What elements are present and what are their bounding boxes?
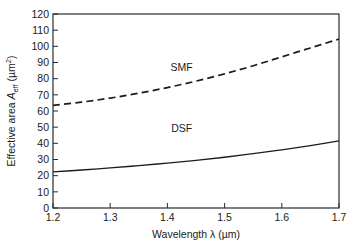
y-tick-label: 50 — [37, 121, 49, 133]
y-tick-label: 10 — [37, 186, 49, 198]
x-tick-label: 1.7 — [332, 211, 347, 223]
x-axis-title-main: Wavelength — [152, 228, 210, 240]
x-tick-label: 1.3 — [103, 211, 118, 223]
series-label-dsf: DSF — [171, 122, 192, 134]
y-tick-marks — [53, 14, 58, 208]
x-tick-label: 1.5 — [217, 211, 232, 223]
y-axis-title-units-close: ) — [5, 56, 17, 60]
x-tick-labels: 1.2 1.3 1.4 1.5 1.6 1.7 — [46, 211, 347, 223]
y-tick-label: 20 — [37, 169, 49, 181]
x-axis-title: Wavelength λ (µm) — [152, 228, 240, 240]
x-tick-label: 1.2 — [46, 211, 61, 223]
series-label-smf: SMF — [171, 61, 193, 73]
y-axis-title-main: Effective area — [5, 100, 17, 167]
figure-container: 0 10 20 30 40 50 60 70 80 90 100 110 120… — [0, 0, 355, 246]
y-tick-label: 80 — [37, 72, 49, 84]
y-tick-label: 40 — [37, 137, 49, 149]
y-tick-label: 110 — [32, 24, 49, 36]
plot-frame — [53, 14, 339, 208]
y-tick-label: 70 — [37, 89, 49, 101]
series-line-dsf — [53, 141, 339, 172]
x-tick-label: 1.6 — [274, 211, 289, 223]
x-axis-title-units: (µm) — [215, 228, 240, 240]
y-tick-label: 90 — [37, 56, 49, 68]
chart-canvas: 0 10 20 30 40 50 60 70 80 90 100 110 120… — [0, 0, 355, 246]
y-tick-label: 120 — [31, 8, 49, 20]
x-tick-label: 1.4 — [160, 211, 175, 223]
y-axis-title-units-open: (µm — [5, 63, 17, 84]
series-line-smf — [53, 39, 339, 105]
y-tick-label: 60 — [37, 105, 49, 117]
y-tick-label: 100 — [31, 40, 49, 52]
y-tick-labels: 0 10 20 30 40 50 60 70 80 90 100 110 120 — [31, 8, 49, 214]
y-axis-title-symbol: A — [5, 92, 17, 100]
y-axis-title: Effective area Aeff (µm2) — [4, 56, 20, 167]
y-tick-label: 30 — [37, 153, 49, 165]
x-tick-marks — [53, 203, 339, 208]
